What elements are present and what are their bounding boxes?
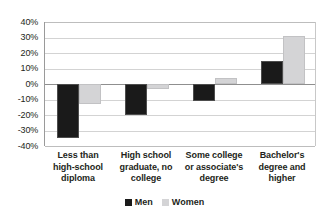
bar-group-bachelors-and-higher [249, 22, 317, 146]
y-tick-neg20: -20% [0, 111, 38, 120]
category-line: graduate, no [112, 162, 180, 174]
category-line: diploma [44, 173, 112, 185]
category-line: higher [248, 173, 316, 185]
plot-area [44, 22, 316, 146]
bar-women-high-school-graduate [147, 84, 169, 89]
bar-men-high-school-graduate [125, 84, 147, 115]
category-line: High school [112, 150, 180, 162]
y-tick-20: 20% [0, 49, 38, 58]
bar-women-some-college [215, 78, 237, 84]
category-line: degree [180, 173, 248, 185]
category-label-some-college: Some college or associate's degree [180, 150, 248, 185]
y-tick-10: 10% [0, 64, 38, 73]
y-tick-0: 0% [0, 80, 38, 89]
legend-label-women: Women [172, 197, 204, 207]
chart-legend: Men Women [0, 197, 329, 207]
category-line: Bachelor's [248, 150, 316, 162]
bar-group-some-college [181, 22, 249, 146]
bar-women-less-than-high-school [79, 84, 101, 104]
bar-group-high-school-graduate [113, 22, 181, 146]
category-line: high-school [44, 162, 112, 174]
y-tick-neg40: -40% [0, 142, 38, 151]
y-tick-neg10: -10% [0, 95, 38, 104]
bar-men-bachelors-and-higher [261, 61, 283, 84]
category-label-high-school-graduate: High school graduate, no college [112, 150, 180, 185]
category-label-bachelors-and-higher: Bachelor's degree and higher [248, 150, 316, 185]
legend-swatch-men-icon [125, 199, 132, 206]
legend-label-men: Men [135, 197, 153, 207]
y-tick-neg30: -30% [0, 126, 38, 135]
bar-women-bachelors-and-higher [283, 36, 305, 84]
bar-men-less-than-high-school [57, 84, 79, 138]
category-line: degree and [248, 162, 316, 174]
gridline-neg40 [45, 146, 315, 147]
legend-swatch-women-icon [162, 199, 169, 206]
y-tick-40: 40% [0, 18, 38, 27]
category-line: or associate's [180, 162, 248, 174]
legend-item-men: Men [125, 197, 153, 207]
category-line: college [112, 173, 180, 185]
category-line: Some college [180, 150, 248, 162]
y-axis-labels: 40% 30% 20% 10% 0% -10% -20% -30% -40% [0, 0, 42, 218]
x-axis-labels: Less than high-school diploma High schoo… [44, 150, 316, 194]
category-label-less-than-high-school: Less than high-school diploma [44, 150, 112, 185]
legend-item-women: Women [162, 197, 204, 207]
y-tick-30: 30% [0, 33, 38, 42]
category-line: Less than [44, 150, 112, 162]
bar-men-some-college [193, 84, 215, 101]
bar-group-less-than-high-school [45, 22, 113, 146]
bar-chart: 40% 30% 20% 10% 0% -10% -20% -30% -40% [0, 0, 329, 218]
